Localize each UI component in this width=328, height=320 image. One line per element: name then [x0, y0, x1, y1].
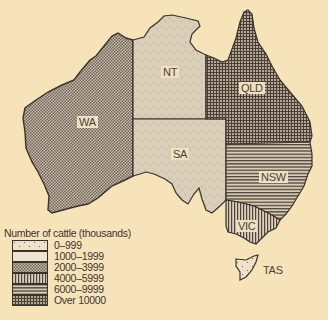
swatch-hlines-icon: [12, 284, 48, 295]
region-sa: [133, 119, 226, 213]
legend-label: Over 10000: [54, 295, 106, 306]
label-nsw: NSW: [259, 171, 288, 183]
label-tas: TAS: [263, 264, 283, 276]
label-qld: QLD: [239, 82, 265, 94]
label-sa: SA: [171, 148, 189, 160]
label-nt: NT: [161, 66, 179, 78]
label-wa: WA: [77, 116, 98, 128]
swatch-vlines-icon: [12, 273, 48, 284]
legend-item: Over 10000: [4, 295, 131, 306]
swatch-checker-icon: [12, 262, 48, 273]
legend-title: Number of cattle (thousands): [4, 227, 131, 239]
swatch-dots-icon: [12, 240, 48, 251]
label-vic: VIC: [236, 220, 257, 232]
swatch-speckle-icon: [12, 251, 48, 262]
swatch-grid-icon: [12, 295, 48, 306]
region-tas: [236, 255, 258, 280]
legend: Number of cattle (thousands) 0–999 1000–…: [4, 227, 131, 306]
